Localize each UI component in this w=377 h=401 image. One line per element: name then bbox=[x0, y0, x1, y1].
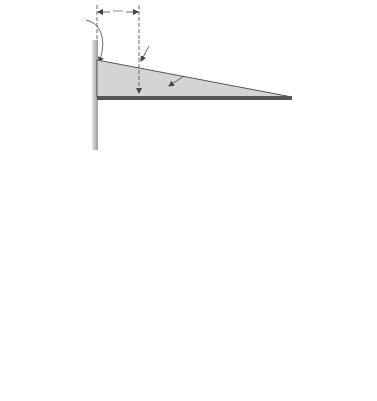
beam bbox=[97, 96, 292, 100]
w1-label bbox=[0, 0, 103, 62]
triangular-load-area bbox=[97, 60, 292, 97]
cantilever-beam-diagram bbox=[0, 0, 377, 401]
l-over-3-dimension bbox=[97, 5, 139, 40]
